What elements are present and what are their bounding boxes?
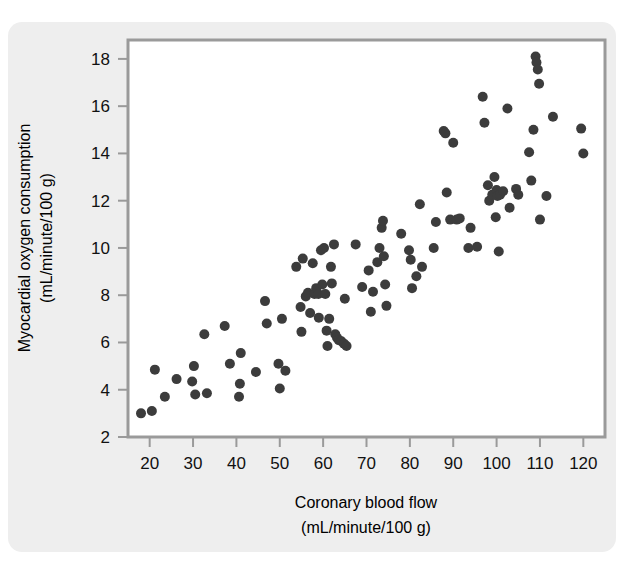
data-point — [136, 408, 146, 418]
data-point — [379, 251, 389, 261]
data-point — [320, 289, 330, 299]
data-point — [396, 229, 406, 239]
data-point — [147, 406, 157, 416]
data-point — [329, 239, 339, 249]
data-point — [324, 314, 334, 324]
data-point — [260, 296, 270, 306]
data-point — [548, 112, 558, 122]
x-tick-label: 60 — [314, 454, 333, 473]
data-point — [160, 392, 170, 402]
y-tick-label: 10 — [91, 239, 110, 258]
data-point — [296, 302, 306, 312]
data-point — [280, 366, 290, 376]
data-point — [150, 365, 160, 375]
data-point — [277, 314, 287, 324]
data-point — [366, 307, 376, 317]
data-point — [305, 308, 315, 318]
data-point — [404, 245, 414, 255]
data-point — [189, 361, 199, 371]
data-point — [440, 128, 450, 138]
data-point — [513, 190, 523, 200]
data-point — [406, 255, 416, 265]
data-point — [225, 359, 235, 369]
data-point — [251, 367, 261, 377]
data-point — [326, 262, 336, 272]
data-point — [502, 104, 512, 114]
data-point — [327, 278, 337, 288]
y-tick-label: 4 — [101, 381, 110, 400]
y-axis-label-line2: (mL/minute/100 g) — [38, 173, 55, 303]
data-point — [308, 258, 318, 268]
data-point — [478, 92, 488, 102]
y-tick-label: 6 — [101, 333, 110, 352]
x-tick-label: 100 — [482, 454, 510, 473]
data-point — [357, 282, 367, 292]
y-tick-label: 18 — [91, 50, 110, 69]
data-point — [576, 124, 586, 134]
data-point — [202, 388, 212, 398]
data-point — [322, 326, 332, 336]
data-point — [314, 313, 324, 323]
data-point — [235, 379, 245, 389]
data-point — [411, 271, 421, 281]
data-point — [380, 280, 390, 290]
data-point — [319, 243, 329, 253]
data-point — [578, 148, 588, 158]
data-point — [463, 243, 473, 253]
data-point — [494, 247, 504, 257]
data-point — [534, 79, 544, 89]
data-point — [442, 187, 452, 197]
data-point — [505, 203, 515, 213]
data-point — [298, 254, 308, 264]
y-tick-label: 8 — [101, 286, 110, 305]
data-point — [417, 262, 427, 272]
x-tick-label: 120 — [569, 454, 597, 473]
data-point — [296, 327, 306, 337]
x-tick-label: 70 — [357, 454, 376, 473]
x-tick-label: 90 — [444, 454, 463, 473]
y-axis-tick-labels: 24681012141618 — [91, 50, 110, 447]
x-tick-label: 20 — [140, 454, 159, 473]
y-tick-label: 2 — [101, 428, 110, 447]
x-tick-label: 50 — [270, 454, 289, 473]
data-point — [524, 147, 534, 157]
data-point — [236, 348, 246, 358]
figure-container: 2030405060708090100110120 24681012141618… — [0, 0, 636, 569]
x-tick-label: 80 — [400, 454, 419, 473]
y-tick-label: 16 — [91, 97, 110, 116]
data-point — [498, 186, 508, 196]
data-point — [466, 223, 476, 233]
data-point — [364, 265, 374, 275]
data-point — [528, 125, 538, 135]
data-point — [190, 389, 200, 399]
data-point — [541, 191, 551, 201]
data-point — [407, 283, 417, 293]
data-point — [199, 329, 209, 339]
x-axis-tick-labels: 2030405060708090100110120 — [140, 454, 597, 473]
data-point — [489, 172, 499, 182]
data-point — [220, 321, 230, 331]
data-point — [317, 280, 327, 290]
x-tick-label: 40 — [227, 454, 246, 473]
data-point — [351, 239, 361, 249]
data-point — [291, 262, 301, 272]
data-point — [275, 384, 285, 394]
x-axis-label-line1: Coronary blood flow — [295, 494, 438, 511]
data-point — [483, 180, 493, 190]
plot-area-background — [128, 40, 605, 437]
data-point — [431, 217, 441, 227]
data-point — [172, 374, 182, 384]
data-point — [187, 376, 197, 386]
data-point — [472, 242, 482, 252]
data-point — [491, 212, 501, 222]
data-point — [342, 341, 352, 351]
data-point — [262, 319, 272, 329]
data-point — [415, 199, 425, 209]
data-point — [368, 287, 378, 297]
data-point — [526, 176, 536, 186]
data-point — [429, 243, 439, 253]
x-axis-label-line2: (mL/minute/100 g) — [301, 519, 431, 536]
y-axis-label-line1: Myocardial oxygen consumption — [16, 124, 33, 353]
data-point — [479, 118, 489, 128]
data-point — [381, 301, 391, 311]
